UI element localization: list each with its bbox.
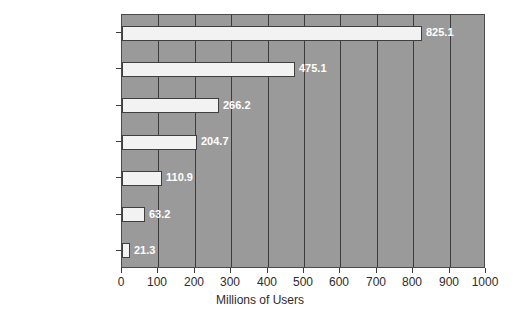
y-tick-mark-2 bbox=[116, 105, 121, 106]
bar-latin-america[interactable] bbox=[122, 135, 197, 150]
value-label-europe: 475.1 bbox=[299, 62, 327, 74]
gridline-x-500 bbox=[304, 15, 305, 267]
x-tick-mark-0 bbox=[121, 268, 122, 273]
x-axis-title: Millions of Users bbox=[0, 293, 520, 307]
gridline-x-600 bbox=[340, 15, 341, 267]
bar-chart-figure: 825.1Asia475.1Europe266.2North America20… bbox=[0, 0, 520, 322]
x-tick-mark-800 bbox=[412, 268, 413, 273]
x-tick-mark-400 bbox=[267, 268, 268, 273]
bar-north-america[interactable] bbox=[122, 98, 219, 113]
gridline-x-900 bbox=[450, 15, 451, 267]
gridline-x-700 bbox=[377, 15, 378, 267]
y-tick-mark-6 bbox=[116, 250, 121, 251]
plot-area bbox=[121, 14, 485, 268]
x-tick-mark-100 bbox=[157, 268, 158, 273]
y-tick-mark-4 bbox=[116, 177, 121, 178]
x-tick-mark-200 bbox=[194, 268, 195, 273]
x-tick-mark-600 bbox=[339, 268, 340, 273]
y-tick-mark-1 bbox=[116, 68, 121, 69]
bar-europe[interactable] bbox=[122, 62, 295, 77]
x-tick-mark-500 bbox=[303, 268, 304, 273]
value-label-middle-east: 63.2 bbox=[149, 208, 170, 220]
gridline-x-800 bbox=[413, 15, 414, 267]
x-tick-label-1000: 1000 bbox=[460, 275, 510, 289]
bar-australia-oceania[interactable] bbox=[122, 243, 130, 258]
y-tick-mark-0 bbox=[116, 32, 121, 33]
value-label-australia-oceania: 21.3 bbox=[134, 244, 155, 256]
x-tick-mark-1000 bbox=[485, 268, 486, 273]
value-label-north-america: 266.2 bbox=[223, 99, 251, 111]
value-label-latin-america: 204.7 bbox=[201, 135, 229, 147]
bar-africa[interactable] bbox=[122, 171, 162, 186]
bar-middle-east[interactable] bbox=[122, 207, 145, 222]
x-tick-mark-300 bbox=[230, 268, 231, 273]
y-tick-mark-3 bbox=[116, 141, 121, 142]
y-tick-mark-5 bbox=[116, 214, 121, 215]
value-label-africa: 110.9 bbox=[166, 171, 193, 183]
value-label-asia: 825.1 bbox=[426, 26, 454, 38]
gridline-x-400 bbox=[268, 15, 269, 267]
x-tick-mark-900 bbox=[449, 268, 450, 273]
gridline-x-300 bbox=[231, 15, 232, 267]
bar-asia[interactable] bbox=[122, 26, 422, 41]
x-tick-mark-700 bbox=[376, 268, 377, 273]
